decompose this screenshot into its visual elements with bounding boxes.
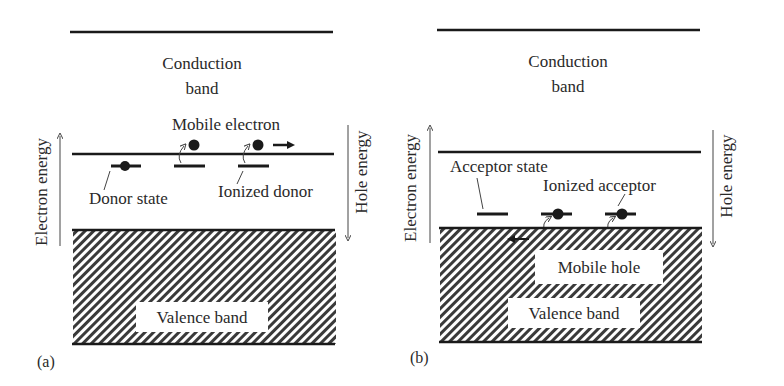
acceptor-state xyxy=(477,178,508,214)
conduction-band-label-line1: Conduction xyxy=(162,54,242,73)
donor-state xyxy=(104,161,141,190)
panel-b-label: (b) xyxy=(410,349,429,367)
panel-a-label: (a) xyxy=(37,353,55,371)
donor-state-label: Donor state xyxy=(89,189,168,208)
mobile-electron-icon xyxy=(189,140,200,151)
ionized-donor-2 xyxy=(237,140,291,185)
ionized-acceptor-label: Ionized acceptor xyxy=(543,176,656,195)
bound-electron-icon xyxy=(120,161,130,171)
ionized-donor-label: Ionized donor xyxy=(218,182,313,201)
electron-energy-axis-label: Electron energy xyxy=(401,134,420,242)
mobile-electron-label: Mobile electron xyxy=(172,115,281,134)
acceptor-state-label: Acceptor state xyxy=(450,157,548,176)
mobile-hole-label: Mobile hole xyxy=(558,258,641,277)
mobile-electron-icon xyxy=(253,140,264,151)
band-diagram: Conduction band Mobile electron Donor st… xyxy=(0,0,784,386)
valence-band-label: Valence band xyxy=(528,304,620,323)
captured-electron-icon xyxy=(553,209,564,220)
conduction-band-label-line1: Conduction xyxy=(528,52,608,71)
hole-energy-axis-label: Hole energy xyxy=(352,130,371,214)
hole-energy-axis-label: Hole energy xyxy=(717,134,736,218)
valence-band-label: Valence band xyxy=(156,308,248,327)
conduction-band-label-line2: band xyxy=(551,77,585,96)
panel-b: Conduction band Acceptor state Ionized a… xyxy=(401,30,736,367)
electron-energy-axis-label: Electron energy xyxy=(32,138,51,246)
captured-electron-icon xyxy=(617,209,628,220)
panel-a: Conduction band Mobile electron Donor st… xyxy=(32,32,371,371)
conduction-band-label-line2: band xyxy=(185,79,219,98)
